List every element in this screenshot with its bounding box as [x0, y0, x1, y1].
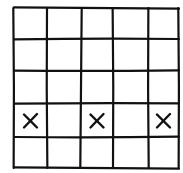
grid-cell-r2-c1: [15, 40, 46, 70]
grid-board: [0, 0, 183, 173]
grid-cell-r1-c5: [149, 9, 178, 38]
grid-horizontal-line: [14, 7, 179, 8]
grid-cell-r3-c4: [114, 72, 147, 102]
grid-cell-r4-c2: [48, 104, 80, 136]
grid-cell-r2-c3: [82, 40, 112, 70]
grid-cell-r5-c2: [48, 138, 80, 167]
grid-horizontal-line: [14, 39, 179, 40]
grid-cell-r5-c3: [82, 138, 112, 167]
grid-cell-r4-c4: [114, 104, 147, 136]
grid-vertical-line: [148, 8, 149, 168]
grid-horizontal-line: [14, 137, 179, 138]
grid-cell-r5-c5: [149, 138, 178, 167]
grid-cell-r1-c2: [48, 9, 80, 38]
grid-cell-r3-c5: [149, 72, 178, 102]
grid-cell-r5-c4: [114, 138, 147, 167]
grid-cell-r2-c2: [48, 40, 80, 70]
grid-cell-r5-c1: [15, 138, 46, 167]
grid-horizontal-line: [14, 167, 179, 168]
grid-vertical-line: [178, 8, 179, 168]
grid-cell-r2-c4: [114, 40, 147, 70]
grid-cell-r3-c3: [82, 72, 112, 102]
grid-vertical-line: [80, 8, 81, 168]
grid-cells: [15, 9, 178, 167]
grid-vertical-line: [13, 8, 14, 168]
grid-cell-r1-c1: [15, 9, 46, 38]
grid-horizontal-line: [14, 103, 179, 104]
grid-cell-r3-c1: [15, 72, 46, 102]
grid-cell-r3-c2: [48, 72, 80, 102]
grid-horizontal-line: [14, 70, 179, 71]
grid-vertical-line: [113, 8, 114, 168]
grid-vertical-line: [47, 8, 48, 168]
grid-cell-r1-c3: [82, 9, 112, 38]
grid-cell-r2-c5: [149, 40, 178, 70]
grid-cell-r1-c4: [114, 9, 147, 38]
